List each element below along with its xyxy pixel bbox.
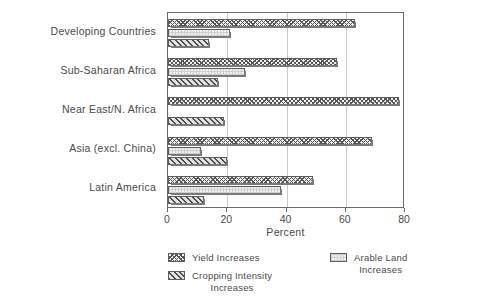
bar-group — [168, 131, 403, 170]
x-axis-tick-label: 40 — [280, 213, 292, 225]
bar-group — [168, 52, 403, 91]
bar-group — [168, 13, 403, 52]
x-axis-tick-label: 80 — [398, 213, 410, 225]
x-axis-tick — [167, 208, 168, 212]
y-axis-category-labels: Developing CountriesSub-Saharan AfricaNe… — [0, 0, 156, 210]
bar — [168, 147, 201, 155]
bar — [168, 97, 399, 105]
x-axis-tick-label: 20 — [220, 213, 232, 225]
bar — [168, 68, 245, 76]
bar-shadow — [171, 26, 356, 28]
bar-shadow — [171, 85, 219, 87]
x-axis-tick — [226, 208, 227, 212]
bar — [168, 29, 230, 37]
bar — [168, 117, 224, 125]
bar-shadow — [171, 65, 338, 67]
bar-shadow — [171, 183, 314, 185]
bar-shadow — [171, 46, 210, 48]
x-axis-tick — [286, 208, 287, 212]
y-axis-label: Latin America — [0, 181, 156, 193]
bar-shadow — [171, 154, 202, 156]
bar — [168, 39, 209, 47]
x-axis-tick — [345, 208, 346, 212]
bar-shadow — [171, 203, 205, 205]
legend-item: Yield Increases — [168, 252, 260, 264]
bar — [168, 157, 227, 165]
chart-legend: Yield IncreasesCropping Intensity Increa… — [0, 250, 500, 306]
x-axis-tick — [404, 208, 405, 212]
x-axis-tick-label: 0 — [164, 213, 170, 225]
x-axis: 020406080 — [167, 208, 404, 209]
y-axis-label: Sub-Saharan Africa — [0, 64, 156, 76]
legend-label: Arable Land Increases — [354, 252, 407, 275]
bar-group — [168, 170, 403, 209]
plot-area — [167, 12, 404, 208]
bar-group — [168, 91, 403, 130]
bar — [168, 58, 337, 66]
bar-shadow — [171, 164, 228, 166]
y-axis-label: Asia (excl. China) — [0, 142, 156, 154]
bar-shadow — [171, 36, 231, 38]
legend-item: Arable Land Increases — [330, 252, 407, 275]
bar-shadow — [171, 124, 225, 126]
bar — [168, 186, 281, 194]
bar-shadow — [171, 193, 282, 195]
x-axis-title: Percent — [167, 226, 404, 238]
bar — [168, 176, 313, 184]
bar — [168, 137, 372, 145]
bar-shadow — [171, 75, 246, 77]
bar — [168, 19, 355, 27]
bar-shadow — [171, 144, 373, 146]
bar — [168, 196, 204, 204]
bar-shadow — [171, 104, 400, 106]
light-dotted-swatch — [330, 253, 347, 262]
bar — [168, 78, 218, 86]
legend-item: Cropping Intensity Increases — [168, 270, 272, 293]
legend-label: Cropping Intensity Increases — [192, 270, 272, 293]
y-axis-label: Near East/N. Africa — [0, 103, 156, 115]
x-axis-tick-label: 60 — [339, 213, 351, 225]
diagonal-hatch-swatch — [168, 271, 185, 280]
legend-label: Yield Increases — [192, 252, 260, 264]
cross-hatch-swatch — [168, 253, 185, 262]
chart-figure: Developing CountriesSub-Saharan AfricaNe… — [0, 0, 500, 306]
y-axis-label: Developing Countries — [0, 25, 156, 37]
